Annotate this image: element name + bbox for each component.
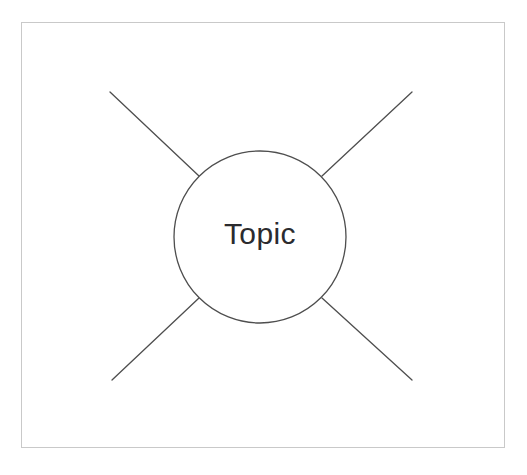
branch-line-top-left[interactable] bbox=[110, 92, 199, 176]
branch-line-top-right[interactable] bbox=[322, 92, 412, 176]
branch-line-bottom-left[interactable] bbox=[112, 298, 199, 380]
branch-line-bottom-right[interactable] bbox=[322, 298, 412, 380]
diagram-canvas: Topic bbox=[0, 0, 527, 475]
topic-label: Topic bbox=[175, 215, 345, 253]
